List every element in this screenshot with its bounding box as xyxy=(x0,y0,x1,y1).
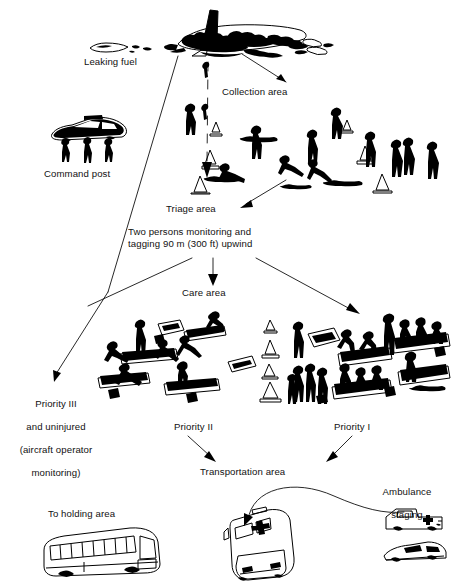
arrow-care-to-priority-iii xyxy=(82,256,198,310)
care-area-right-group xyxy=(288,304,451,404)
ambulance-van-icon xyxy=(382,505,446,535)
arrow-triage-inbound xyxy=(238,178,294,214)
label-to-holding-area: To holding area xyxy=(48,508,115,520)
label-priority-i: Priority I xyxy=(334,421,370,433)
priority-iii-line1: Priority III xyxy=(35,398,77,409)
label-collection-area: Collection area xyxy=(222,86,288,98)
arrow-priority-ii-to-transport xyxy=(186,434,226,466)
coach-bus-icon xyxy=(38,524,170,582)
monitoring-note-line2: tagging 90 m (300 ft) upwind xyxy=(128,238,252,250)
care-area-left-group xyxy=(100,306,280,406)
priority-iii-line2: and uninjured xyxy=(26,421,85,432)
label-transportation-area: Transportation area xyxy=(200,466,285,478)
diagram-canvas: Leaking fuel Collection area xyxy=(0,0,451,588)
monitoring-note-line1: Two persons monitoring and xyxy=(128,226,251,238)
priority-iii-line3: (aircraft operator xyxy=(20,444,93,455)
ambulance-staging-line1: Ambulance xyxy=(383,486,432,497)
label-priority-iii: Priority III and uninjured (aircraft ope… xyxy=(4,386,108,479)
priority-iii-line4: monitoring) xyxy=(31,467,80,478)
arrow-priority-i-to-transport xyxy=(322,434,362,466)
arrow-to-collection-area xyxy=(240,52,300,90)
care-area-cone-row xyxy=(254,318,290,402)
label-triage-area: Triage area xyxy=(166,203,216,215)
label-priority-ii: Priority II xyxy=(174,421,213,433)
triage-field-group xyxy=(186,104,448,194)
rescue-car-icon xyxy=(380,540,450,566)
ambulance-bus-icon xyxy=(222,498,308,584)
